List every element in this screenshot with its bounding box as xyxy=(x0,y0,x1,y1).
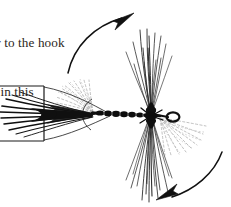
page-canvas: cular to the hook own in this w. xyxy=(0,0,231,207)
rotation-arrow-down xyxy=(156,152,222,200)
rotation-arrow-up xyxy=(68,13,134,73)
ghost-hackle-lower-right xyxy=(160,118,206,155)
ghost-hackle-lower-right-crosslines xyxy=(161,121,204,153)
fly-diagram xyxy=(0,0,231,207)
hackle-upper xyxy=(126,29,172,111)
hackle-lower xyxy=(126,121,172,202)
